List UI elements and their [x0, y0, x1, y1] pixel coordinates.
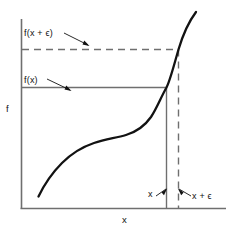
f-of-x-plus-epsilon-label: f(x + ϵ): [24, 29, 53, 38]
f-of-x-label: f(x): [24, 76, 38, 85]
f-of-x-plus-epsilon-arrow-head: [83, 41, 90, 46]
x-axis-label: x: [122, 215, 127, 225]
function-curve: [39, 12, 197, 197]
y-axis-label: f: [6, 104, 9, 114]
function-plot-figure: f(x + ϵ) f(x) x x + ϵ f x: [0, 0, 237, 231]
x-point-label: x: [148, 190, 153, 199]
x-plus-epsilon-point-label: x + ϵ: [192, 192, 212, 201]
f-of-x-arrow-head: [65, 86, 72, 91]
